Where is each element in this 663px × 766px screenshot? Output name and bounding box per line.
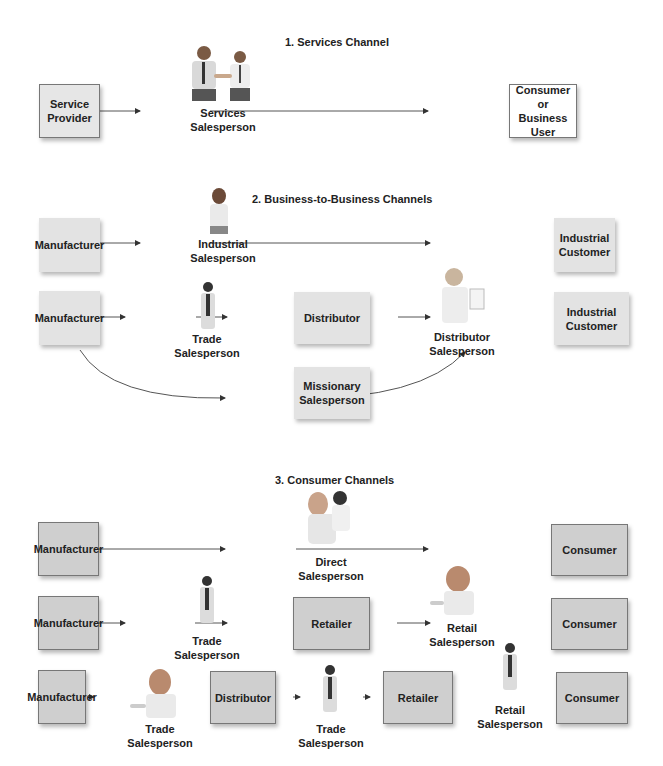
consumer-channels-title: 3. Consumer Channels xyxy=(275,474,394,486)
industrial-customer-box-1: Industrial Customer xyxy=(554,218,615,272)
distributor-salesperson-label: Distributor Salesperson xyxy=(429,330,494,358)
consumer-distributor-label: Distributor xyxy=(215,691,271,705)
handshake-salespeople-icon xyxy=(184,44,264,106)
consumer-label-3: Consumer xyxy=(565,691,619,705)
industrial-salesperson-label: Industrial Salesperson xyxy=(190,237,255,265)
consumer-trade-salesperson-label-3: Trade Salesperson xyxy=(298,722,363,750)
consumer-distributor-box: Distributor xyxy=(210,671,276,724)
b2b-distributor-label: Distributor xyxy=(304,311,360,325)
consumer-manufacturer-label-1: Manufacturer xyxy=(34,542,104,556)
consumer-manufacturer-box-2: Manufacturer xyxy=(38,596,99,650)
trade-salesperson-icon-2 xyxy=(195,575,219,631)
services-salesperson-label: Services Salesperson xyxy=(190,106,255,134)
retail-salesperson-icon xyxy=(428,565,480,617)
industrial-salesperson-icon xyxy=(198,188,238,236)
retail-salesperson-icon-2 xyxy=(498,642,522,698)
consumer-manufacturer-label-2: Manufacturer xyxy=(34,616,104,630)
consumer-manufacturer-label-3: Manufacturer xyxy=(27,690,97,704)
consumer-label-2: Consumer xyxy=(562,617,616,631)
consumer-retailer-box-2: Retailer xyxy=(383,671,453,724)
services-channel-title: 1. Services Channel xyxy=(285,36,389,48)
consumer-retailer-box-1: Retailer xyxy=(293,597,370,650)
retail-salesperson-label-2: Retail Salesperson xyxy=(477,703,542,731)
consumer-manufacturer-box-1: Manufacturer xyxy=(38,522,99,576)
trade-salesperson-icon-3 xyxy=(126,668,186,720)
distributor-salesperson-icon xyxy=(434,265,496,327)
b2b-manufacturer-box-1: Manufacturer xyxy=(39,218,100,272)
missionary-salesperson-box: Missionary Salesperson xyxy=(294,367,370,419)
consumer-retailer-label-2: Retailer xyxy=(398,691,438,705)
service-provider-label: Service Provider xyxy=(47,97,92,125)
retail-salesperson-label-1: Retail Salesperson xyxy=(429,621,494,649)
consumer-trade-salesperson-label-2: Trade Salesperson xyxy=(127,722,192,750)
consumer-box-1: Consumer xyxy=(551,524,628,576)
industrial-customer-label-2: Industrial Customer xyxy=(566,305,617,333)
b2b-manufacturer-box-2: Manufacturer xyxy=(39,291,100,345)
direct-salesperson-label: Direct Salesperson xyxy=(298,555,363,583)
b2b-channels-title: 2. Business-to-Business Channels xyxy=(252,193,432,205)
consumer-label-1: Consumer xyxy=(562,543,616,557)
missionary-salesperson-label: Missionary Salesperson xyxy=(299,379,364,407)
direct-salesperson-icon xyxy=(302,490,362,546)
consumer-retailer-label-1: Retailer xyxy=(311,617,351,631)
industrial-customer-label-1: Industrial Customer xyxy=(559,231,610,259)
consumer-box-2: Consumer xyxy=(551,598,628,650)
trade-salesperson-icon-4 xyxy=(318,664,342,720)
b2b-manufacturer-label-2: Manufacturer xyxy=(35,311,105,325)
service-provider-box: Service Provider xyxy=(39,84,100,138)
consumer-trade-salesperson-label-1: Trade Salesperson xyxy=(174,634,239,662)
consumer-manufacturer-box-3: Manufacturer xyxy=(38,670,86,724)
b2b-distributor-box: Distributor xyxy=(294,292,370,344)
trade-salesperson-icon xyxy=(196,281,220,337)
b2b-trade-salesperson-label: Trade Salesperson xyxy=(174,332,239,360)
b2b-manufacturer-label-1: Manufacturer xyxy=(35,238,105,252)
consumer-business-user-label: Consumer or Business User xyxy=(510,83,576,139)
consumer-business-user-box: Consumer or Business User xyxy=(509,84,577,138)
consumer-box-3: Consumer xyxy=(556,672,628,724)
industrial-customer-box-2: Industrial Customer xyxy=(554,292,629,345)
